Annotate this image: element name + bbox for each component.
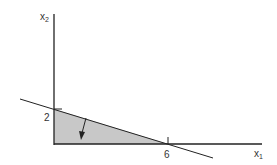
constraint-line xyxy=(20,99,213,158)
y-axis-label: x2 xyxy=(40,11,49,23)
y-intercept-label: 2 xyxy=(44,112,50,123)
diagram-canvas: x2 x1 2 6 xyxy=(0,0,277,165)
x-axis-label: x1 xyxy=(254,148,263,160)
x-intercept-label: 6 xyxy=(164,149,170,160)
